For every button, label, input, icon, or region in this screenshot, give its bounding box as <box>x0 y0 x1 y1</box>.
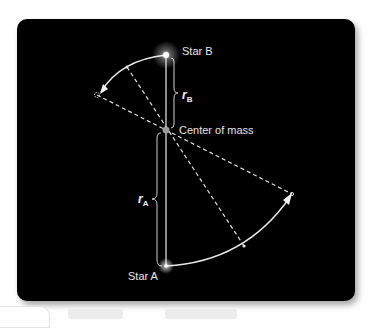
star-b-label: Star B <box>182 45 213 57</box>
star-a <box>164 264 168 268</box>
r-b-label: rB <box>182 88 192 104</box>
footer-tab <box>0 306 50 328</box>
center-of-mass-label: Center of mass <box>179 124 254 136</box>
dashed-radii <box>97 67 292 246</box>
star-b <box>163 52 169 58</box>
star-a-orbit-arc <box>166 197 290 266</box>
star-a-label: Star A <box>128 270 158 282</box>
brace-rb <box>171 58 178 128</box>
footer-text-blur <box>68 309 123 319</box>
center-of-mass-marker <box>163 127 170 134</box>
r-a-label: rA <box>138 192 148 208</box>
arrow-head-b <box>100 84 108 94</box>
brace-ra <box>152 133 162 266</box>
footer-text-blur <box>165 309 237 319</box>
